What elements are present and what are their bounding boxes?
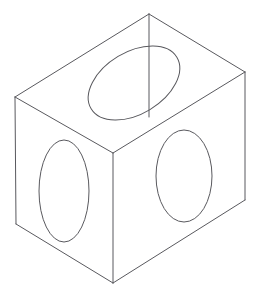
- left-face-hole-ellipse: [39, 140, 89, 242]
- edge-top-face-front-left: [15, 97, 113, 153]
- holes-group: [39, 31, 212, 242]
- isometric-wireframe-figure: [0, 0, 263, 297]
- right-face-hole-ellipse: [156, 130, 212, 222]
- edge-bottom-face-left: [16, 224, 113, 283]
- top-face-hole-ellipse: [75, 31, 193, 136]
- drawing-canvas: [0, 0, 263, 297]
- edge-top-face-front-right: [113, 72, 245, 153]
- edge-vertical-left: [15, 97, 16, 224]
- edge-top-face-back-right: [149, 14, 245, 72]
- edge-bottom-face-right: [113, 200, 245, 283]
- edge-top-face-back-left: [15, 14, 149, 97]
